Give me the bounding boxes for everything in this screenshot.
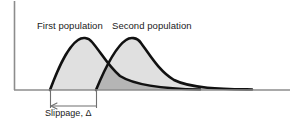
curve-areas [50, 38, 252, 90]
slippage-annotation [51, 90, 97, 109]
first-population-label: First population [37, 20, 103, 31]
slippage-distribution-figure: First population Second population Slipp… [0, 0, 302, 129]
slippage-label: Slippage, Δ [45, 108, 92, 118]
second-population-label: Second population [112, 20, 192, 31]
